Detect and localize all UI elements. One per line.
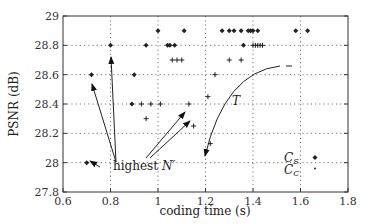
y-tick-label: 28.4 (35, 98, 60, 111)
legend-diamond-marker (313, 155, 318, 160)
diamond-marker (84, 160, 89, 165)
x-tick-label: 0.8 (102, 195, 120, 208)
plus-marker (148, 102, 153, 107)
y-tick-label: 27.8 (35, 186, 60, 199)
plus-marker (239, 58, 244, 63)
diamond-marker (241, 43, 246, 48)
y-tick-label: 28.2 (35, 127, 60, 140)
plus-marker (213, 72, 218, 77)
grid-lines (63, 16, 348, 192)
plus-marker (175, 58, 180, 63)
diamond-marker (255, 28, 260, 33)
plus-marker (170, 58, 175, 63)
curve-t-label: T (232, 94, 241, 108)
diamond-marker (232, 28, 237, 33)
y-tick-label: 28 (45, 157, 59, 170)
y-tick-label: 28.8 (35, 39, 60, 52)
plus-marker (158, 102, 163, 107)
diamond-marker (89, 72, 94, 77)
diamond-marker (172, 43, 177, 48)
y-tick-label: 29 (45, 10, 59, 23)
diamond-marker (129, 102, 134, 107)
plus-marker (260, 43, 265, 48)
axis-ticks: 0.60.811.21.41.61.827.82828.228.428.628.… (35, 10, 357, 208)
diamond-marker (108, 43, 113, 48)
plus-marker (179, 58, 184, 63)
y-axis-label: PSNR (dB) (7, 71, 21, 137)
plus-marker (205, 94, 210, 99)
plus-marker (144, 116, 149, 121)
x-tick-label: 1.8 (339, 195, 357, 208)
diamond-marker (144, 43, 149, 48)
diamond-marker (227, 28, 232, 33)
x-axis-label: coding time (s) (159, 204, 250, 218)
plus-marker (191, 124, 196, 129)
diamond-marker (239, 28, 244, 33)
diamond-marker (220, 28, 225, 33)
diamond-marker (293, 28, 298, 33)
plus-marker (227, 58, 232, 63)
diamond-marker (132, 72, 137, 77)
diamond-marker (182, 28, 187, 33)
plus-marker (186, 102, 191, 107)
diamond-marker (156, 28, 161, 33)
plus-marker (139, 102, 144, 107)
y-tick-label: 28.6 (35, 69, 60, 82)
psnr-vs-coding-time-chart: 0.60.811.21.41.61.827.82828.228.428.628.… (0, 0, 377, 224)
x-tick-label: 1.6 (292, 195, 310, 208)
highest-n-label: highest N′ (113, 159, 175, 173)
diamond-marker (305, 28, 310, 33)
data-points (84, 28, 310, 165)
annotation-arrows (90, 57, 292, 167)
